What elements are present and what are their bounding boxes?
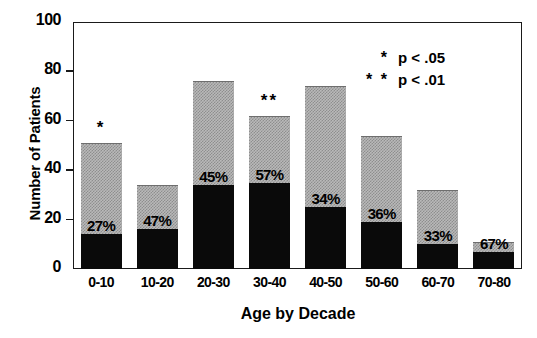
legend-star-double: * * <box>355 69 389 91</box>
percent-label-40-50: 34% <box>312 190 340 207</box>
y-tick-label: 80 <box>44 60 61 78</box>
y-tick-label: 60 <box>44 110 61 128</box>
percent-label-0-10: 27% <box>87 217 115 234</box>
significance-legend: * p < .05 * * p < .01 <box>355 47 445 91</box>
x-tick-label-70-80: 70-80 <box>478 274 511 290</box>
bar-segment-black <box>417 244 458 269</box>
percent-label-10-20: 47% <box>143 212 171 229</box>
percent-label-60-70: 33% <box>424 227 452 244</box>
bar-50-60 <box>361 136 402 269</box>
legend-star-single: * <box>355 47 389 69</box>
bar-segment-black <box>81 234 122 269</box>
y-tick-mark <box>66 169 73 171</box>
legend-row-p05: * p < .05 <box>355 47 445 69</box>
x-tick-label-20-30: 20-30 <box>197 274 230 290</box>
y-tick-label: 40 <box>44 159 61 177</box>
bar-segment-black <box>473 252 514 269</box>
bar-segment-black <box>137 229 178 269</box>
bar-chart: Number of Patients 020406080100 0-1010-2… <box>0 0 537 338</box>
bar-segment-black <box>249 183 290 269</box>
bar-30-40 <box>249 116 290 269</box>
y-tick-mark <box>66 70 73 72</box>
x-tick-label-10-20: 10-20 <box>141 274 174 290</box>
x-axis-title: Age by Decade <box>73 305 523 323</box>
y-tick-mark <box>66 120 73 122</box>
y-tick-label: 100 <box>36 11 61 29</box>
legend-text-p05: p < .05 <box>389 47 445 69</box>
x-tick-label-40-50: 40-50 <box>309 274 342 290</box>
x-tick-label-50-60: 50-60 <box>365 274 398 290</box>
bar-40-50 <box>305 86 346 269</box>
percent-label-20-30: 45% <box>199 168 227 185</box>
y-tick-label: 0 <box>53 258 61 276</box>
legend-text-p01: p < .01 <box>389 69 445 91</box>
y-tick-label: 20 <box>44 209 61 227</box>
significance-marker-0-10: * <box>97 123 106 133</box>
x-tick-label-60-70: 60-70 <box>421 274 454 290</box>
x-tick-label-30-40: 30-40 <box>253 274 286 290</box>
significance-marker-30-40: ** <box>261 96 278 106</box>
y-tick-mark <box>66 219 73 221</box>
bar-segment-black <box>193 185 234 269</box>
percent-label-30-40: 57% <box>255 166 283 183</box>
bar-segment-black <box>305 207 346 269</box>
y-axis-title: Number of Patients <box>26 54 43 254</box>
percent-label-50-60: 36% <box>368 205 396 222</box>
x-tick-label-0-10: 0-10 <box>88 274 114 290</box>
legend-row-p01: * * p < .01 <box>355 69 445 91</box>
bar-0-10 <box>81 143 122 269</box>
bar-segment-black <box>361 222 402 269</box>
percent-label-70-80: 67% <box>480 235 508 252</box>
